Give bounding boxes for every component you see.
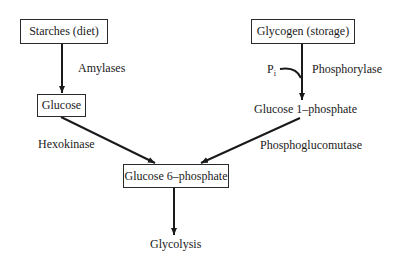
- node-starches: Starches (diet): [20, 19, 108, 44]
- node-glucose-1-phosphate: Glucose 1–phosphate: [254, 102, 357, 116]
- edge-label-hexokinase: Hexokinase: [38, 137, 95, 151]
- node-glycogen-label: Glycogen (storage): [257, 24, 349, 39]
- node-glucose-label: Glucose: [42, 98, 81, 113]
- node-starches-label: Starches (diet): [29, 24, 99, 39]
- pi-join-curve: [280, 68, 301, 78]
- node-glucose-6-phosphate-label: Glucose 6–phosphate: [125, 169, 228, 184]
- node-glycogen: Glycogen (storage): [251, 19, 355, 44]
- cofactor-pi-symbol: P: [267, 62, 274, 76]
- node-glucose: Glucose: [37, 94, 86, 117]
- edge-label-amylases: Amylases: [78, 61, 125, 75]
- node-glucose-6-phosphate: Glucose 6–phosphate: [123, 164, 229, 188]
- cofactor-pi-subscript: i: [274, 69, 276, 78]
- edge-label-phosphorylase: Phosphorylase: [312, 62, 382, 76]
- cofactor-pi: Pi: [267, 62, 276, 81]
- node-glycolysis: Glycolysis: [150, 237, 201, 251]
- edge-label-phosphoglucomutase: Phosphoglucomutase: [260, 138, 362, 152]
